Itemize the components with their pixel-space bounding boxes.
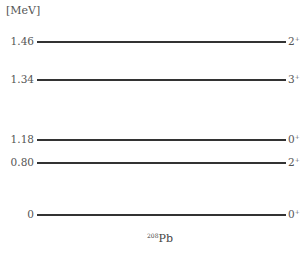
spin-parity-label: 3+ xyxy=(288,73,300,85)
level-1-18: 1.18 0+ xyxy=(0,139,308,151)
energy-label: 1.18 xyxy=(11,133,34,145)
spin-parity-label: 0+ xyxy=(288,208,300,220)
level-line xyxy=(37,162,286,164)
spin-parity-label: 2+ xyxy=(288,35,300,47)
unit-label: [MeV] xyxy=(6,4,40,17)
energy-label: 0.80 xyxy=(11,156,34,168)
energy-label: 0 xyxy=(27,208,34,220)
level-line xyxy=(37,79,286,81)
level-1-34: 1.34 3+ xyxy=(0,79,308,91)
level-1-46: 1.46 2+ xyxy=(0,41,308,53)
level-ground-state: 0 0+ xyxy=(0,214,308,226)
spin-parity-label: 0+ xyxy=(288,133,300,145)
level-line xyxy=(37,41,286,43)
level-0-80: 0.80 2+ xyxy=(0,162,308,174)
level-line xyxy=(37,214,286,216)
energy-label: 1.46 xyxy=(11,35,34,47)
energy-label: 1.34 xyxy=(11,73,34,85)
level-line xyxy=(37,139,286,141)
spin-parity-label: 2+ xyxy=(288,156,300,168)
nucleus-label: 208Pb xyxy=(0,232,308,245)
